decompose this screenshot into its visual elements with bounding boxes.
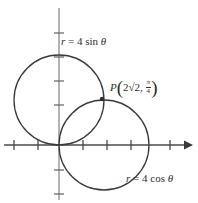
label-sin-equals: = bbox=[68, 35, 74, 47]
point-label-name: P bbox=[110, 81, 117, 93]
label-cos-equals: = bbox=[133, 172, 139, 184]
label-cos-curve: r = 4 cos θ bbox=[126, 173, 173, 184]
label-cos-expression: 4 cos bbox=[142, 172, 165, 184]
point-comma: , bbox=[140, 81, 143, 93]
label-cos-theta: θ bbox=[168, 172, 173, 184]
intersection-point-p bbox=[100, 97, 104, 101]
label-sin-theta: θ bbox=[101, 35, 106, 47]
label-sin-curve: r = 4 sin θ bbox=[61, 36, 106, 47]
point-close-paren: ) bbox=[151, 77, 157, 98]
x-axis-arrowhead bbox=[184, 141, 193, 150]
label-sin-r: r bbox=[61, 35, 65, 47]
point-r-radical: √2 bbox=[129, 81, 141, 93]
label-cos-r: r bbox=[126, 172, 130, 184]
point-open-paren: ( bbox=[117, 77, 123, 98]
label-point-p: P(2√2, π 4 ) bbox=[110, 80, 157, 97]
label-sin-expression: 4 sin bbox=[77, 35, 98, 47]
